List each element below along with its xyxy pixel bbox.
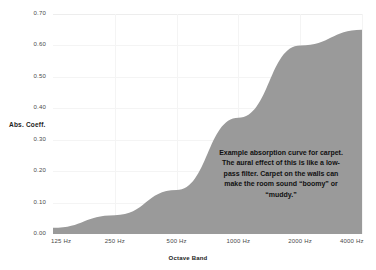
y-tick-label: 0.70 — [0, 10, 46, 16]
x-tick-label: 500 Hz — [167, 238, 187, 244]
x-tick-label: 125 Hz — [51, 238, 71, 244]
y-tick-label: 0.30 — [0, 136, 46, 142]
chart-annotation: Example absorption curve for carpet. The… — [219, 148, 343, 200]
y-tick-label: 0.60 — [0, 41, 46, 47]
x-tick-label: 250 Hz — [105, 238, 125, 244]
y-tick-label: 0.50 — [0, 73, 46, 79]
y-tick-label: 0.40 — [0, 104, 46, 110]
x-tick-label: 4000 Hz — [340, 238, 364, 244]
y-tick-label: 0.00 — [0, 230, 46, 236]
x-tick-label: 2000 Hz — [288, 238, 312, 244]
absorption-curve-area — [53, 14, 362, 234]
x-tick-label: 1000 Hz — [226, 238, 250, 244]
y-axis-title: Abs. Coeff. — [9, 121, 46, 128]
y-tick-label: 0.20 — [0, 167, 46, 173]
chart-container: 0.000.100.200.300.400.500.600.70 125 Hz2… — [0, 0, 376, 270]
x-axis-title: Octave Band — [0, 255, 376, 261]
gridline-vertical — [362, 14, 363, 234]
y-tick-label: 0.10 — [0, 199, 46, 205]
